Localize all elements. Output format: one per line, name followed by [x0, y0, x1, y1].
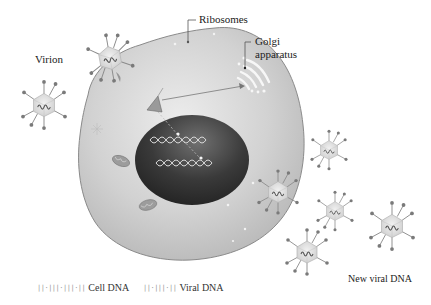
- label-golgi-line2: apparatus: [255, 48, 297, 61]
- label-ribosomes: Ribosomes: [199, 13, 248, 26]
- viral-dna-icon: ||·|||·||: [143, 284, 176, 292]
- diagram-artwork: [0, 0, 431, 305]
- label-new-viral-dna: New viral DNA: [348, 272, 412, 285]
- legend-cell-dna: ||·|||·|||·|| Cell DNA: [37, 282, 129, 293]
- new-virion-3: [369, 201, 415, 251]
- new-virion-2: [316, 191, 353, 231]
- new-virion-1: [310, 130, 347, 170]
- label-virion: Virion: [35, 53, 63, 66]
- legend-label-cell-dna: Cell DNA: [88, 282, 129, 293]
- viral-replication-diagram: Ribosomes Golgi apparatus Virion New vir…: [0, 0, 431, 305]
- cell-dna-icon: ||·|||·|||·||: [37, 284, 85, 292]
- legend-viral-dna: ||·|||·|| Viral DNA: [143, 282, 224, 293]
- legend-label-viral-dna: Viral DNA: [179, 282, 223, 293]
- new-virion-4: [285, 228, 329, 276]
- label-golgi-line1: Golgi: [255, 35, 280, 48]
- free-virion: [21, 80, 67, 130]
